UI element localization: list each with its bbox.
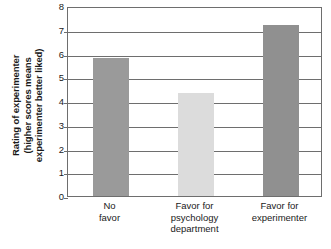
y-tick-label: 2	[50, 145, 64, 155]
y-axis-title-line-3: experimenter better liked)	[34, 48, 46, 162]
y-tick-label: 8	[50, 2, 64, 12]
x-tick-label-line: experimenter	[229, 212, 330, 224]
y-tick-label: 6	[50, 50, 64, 60]
y-tick-label: 7	[50, 26, 64, 36]
y-axis-title-line-2: (higher scores means	[22, 48, 34, 162]
y-axis-tick	[64, 198, 68, 199]
bars-group	[68, 8, 321, 196]
y-axis-title-line-1: Rating of experimenter	[11, 48, 23, 162]
bar-chart: Rating of experimenter (higher scores me…	[0, 0, 331, 249]
bar	[93, 58, 129, 196]
x-tick-label-line: department	[144, 223, 245, 235]
bar	[178, 93, 214, 196]
y-axis-tick-labels: 876543210	[50, 7, 64, 197]
x-tick-label: Favor forexperimenter	[229, 200, 330, 223]
x-tick-label-line: Favor for	[229, 200, 330, 212]
bar	[263, 25, 299, 196]
y-tick-label: 5	[50, 73, 64, 83]
x-axis-tick-labels: NofavorFavor forpsychologydepartmentFavo…	[67, 200, 322, 249]
y-tick-label: 1	[50, 168, 64, 178]
y-axis-title: Rating of experimenter (higher scores me…	[0, 0, 56, 210]
y-tick-label: 4	[50, 97, 64, 107]
y-tick-label: 3	[50, 121, 64, 131]
plot-area	[67, 7, 322, 197]
